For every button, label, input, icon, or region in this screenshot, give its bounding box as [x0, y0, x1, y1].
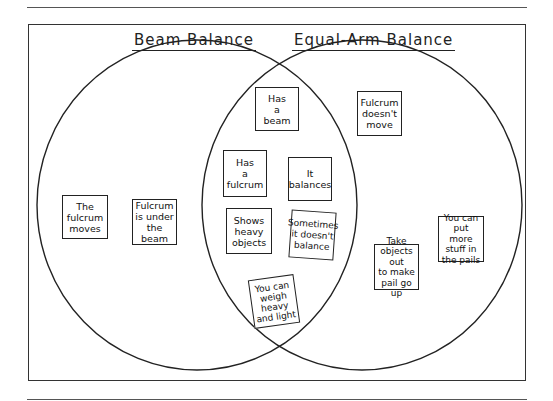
- card-fulcrum-doesnt-move: Fulcrum doesn't move: [357, 91, 402, 136]
- card-sometimes-doesnt-balance: Sometimes it doesn't balance: [288, 209, 336, 260]
- card-fulcrum-moves: The fulcrum moves: [62, 195, 108, 239]
- card-take-objects-out: Take objects out to make pail go up: [374, 244, 419, 290]
- card-shows-heavy-objects: Shows heavy objects: [226, 208, 272, 254]
- card-fulcrum-under-beam: Fulcrum is under the beam: [132, 199, 177, 245]
- card-put-more-stuff: You can put more stuff in the pails: [438, 216, 484, 262]
- right-set-title: Equal-Arm Balance: [292, 32, 455, 51]
- left-set-title: Beam Balance: [132, 32, 256, 51]
- card-has-beam: Has a beam: [255, 87, 299, 131]
- right-set-circle: [202, 40, 522, 370]
- card-has-fulcrum: Has a fulcrum: [223, 150, 267, 197]
- card-it-balances: It balances: [288, 157, 332, 201]
- card-weigh-heavy-light: You can weigh heavy and light: [248, 274, 300, 329]
